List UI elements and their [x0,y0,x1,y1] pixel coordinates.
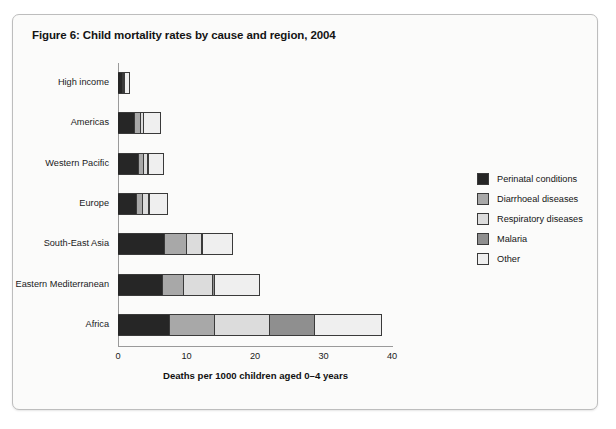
legend-label: Diarrhoeal diseases [497,194,578,204]
x-tick-label: 40 [387,351,397,361]
legend-label: Other [497,254,520,264]
x-axis-title: Deaths per 1000 children aged 0–4 years [118,370,393,381]
category-label: Western Pacific [45,159,109,168]
bar-segment [270,314,315,336]
legend-label: Respiratory diseases [497,214,583,224]
x-tick-label: 20 [250,351,260,361]
legend-item: Malaria [477,230,583,248]
bar-segment [187,233,201,255]
bar-segment [215,274,260,296]
category-label: High income [58,78,109,87]
bar-row: Africa [118,314,382,336]
bar-row: Western Pacific [118,153,164,175]
bar-segment [203,233,233,255]
legend-swatch-icon [477,233,489,245]
x-tick-label: 0 [115,351,120,361]
x-tick-label: 30 [318,351,328,361]
bar-segment [118,153,139,175]
category-label: Americas [71,118,109,127]
bar-segment [118,274,163,296]
chart-legend: Perinatal conditionsDiarrhoeal diseasesR… [477,170,583,270]
bar-segment [165,233,188,255]
plot-area: High incomeAmericasWestern PacificEurope… [118,63,392,345]
x-axis-line [118,346,393,347]
bar-segment [118,193,137,215]
category-label: Africa [86,320,110,329]
legend-swatch-icon [477,213,489,225]
bar-segment [125,72,129,94]
legend-label: Malaria [497,234,527,244]
legend-swatch-icon [477,173,489,185]
bar-segment [118,112,135,134]
legend-swatch-icon [477,253,489,265]
legend-item: Other [477,250,583,268]
legend-swatch-icon [477,193,489,205]
bar-segment [170,314,215,336]
bar-segment [315,314,382,336]
bar-segment [163,274,184,296]
bar-row: High income [118,72,130,94]
bar-segment [144,112,161,134]
bar-segment [118,233,165,255]
bar-row: Americas [118,112,161,134]
legend-item: Diarrhoeal diseases [477,190,583,208]
category-label: South-East Asia [44,239,109,248]
bar-segment [118,314,170,336]
bar-segment [184,274,213,296]
legend-item: Respiratory diseases [477,210,583,228]
bar-row: Europe [118,193,168,215]
category-label: Eastern Mediterranean [16,280,109,289]
bar-segment [150,193,167,215]
x-tick-label: 10 [181,351,191,361]
legend-item: Perinatal conditions [477,170,583,188]
bar-row: Eastern Mediterranean [118,274,260,296]
bar-segment [149,153,164,175]
bar-row: South-East Asia [118,233,233,255]
category-label: Europe [79,199,109,208]
figure-title: Figure 6: Child mortality rates by cause… [32,29,336,41]
legend-label: Perinatal conditions [497,174,577,184]
bar-segment [215,314,270,336]
